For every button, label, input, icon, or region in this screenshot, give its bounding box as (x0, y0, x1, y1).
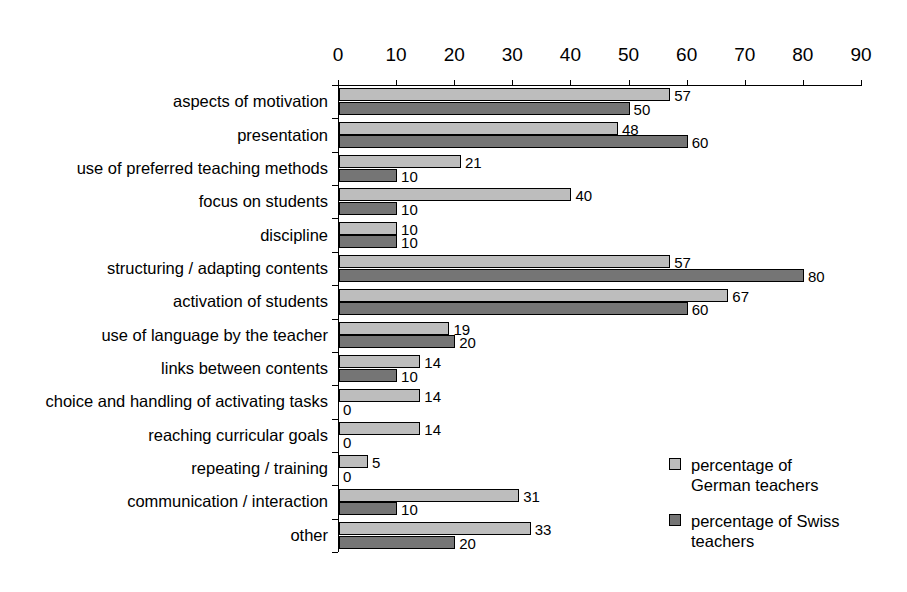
legend-label-line1: percentage of Swiss (691, 511, 894, 531)
x-tick-label: 30 (502, 44, 523, 66)
bar-value-label: 5 (368, 455, 380, 470)
bar-value-label: 60 (688, 302, 709, 317)
bar-value-label: 33 (531, 522, 552, 537)
bar-value-label: 31 (519, 489, 540, 504)
category-label: links between contents (8, 359, 338, 378)
category-label: presentation (8, 126, 338, 145)
bar-value-label: 10 (397, 369, 418, 384)
bar-german (339, 255, 670, 268)
bar-german (339, 88, 670, 101)
bar-value-label: 0 (339, 469, 351, 484)
bar-german (339, 455, 368, 468)
y-tick-mark (332, 452, 338, 453)
category-label: other (8, 526, 338, 545)
bar-value-label: 40 (571, 188, 592, 203)
category-label: aspects of motivation (8, 92, 338, 111)
bar-value-label: 57 (670, 88, 691, 103)
bar-swiss (339, 202, 397, 215)
y-tick-mark (332, 385, 338, 386)
legend-swatch-icon (669, 458, 681, 470)
bar-swiss (339, 302, 688, 315)
x-tick-label: 50 (618, 44, 639, 66)
category-label: focus on students (8, 192, 338, 211)
bar-swiss (339, 235, 397, 248)
x-tick-label: 90 (850, 44, 871, 66)
y-tick-mark (332, 319, 338, 320)
bar-value-label: 20 (455, 335, 476, 350)
y-tick-mark (332, 519, 338, 520)
y-tick-mark (332, 118, 338, 119)
bar-value-label: 14 (420, 389, 441, 404)
bar-row: structuring / adapting contents5780 (338, 252, 861, 285)
bar-row: activation of students6760 (338, 285, 861, 318)
category-label: discipline (8, 226, 338, 245)
y-tick-mark (332, 152, 338, 153)
bar-german (339, 355, 420, 368)
bar-german (339, 155, 461, 168)
bar-row: use of language by the teacher1920 (338, 319, 861, 352)
x-tick-mark (861, 80, 862, 86)
y-tick-mark (332, 352, 338, 353)
bar-row: choice and handling of activating tasks1… (338, 385, 861, 418)
bar-swiss (339, 102, 630, 115)
bar-row: reaching curricular goals140 (338, 419, 861, 452)
bar-row: focus on students4010 (338, 185, 861, 218)
bar-value-label: 10 (397, 202, 418, 217)
bar-swiss (339, 335, 455, 348)
category-label: communication / interaction (8, 492, 338, 511)
bar-value-label: 0 (339, 402, 351, 417)
bar-german (339, 389, 420, 402)
y-tick-mark (332, 485, 338, 486)
category-label: use of language by the teacher (8, 326, 338, 345)
category-label: repeating / training (8, 459, 338, 478)
legend-swatch-icon (669, 514, 681, 526)
y-tick-mark (332, 285, 338, 286)
y-tick-mark (332, 252, 338, 253)
bar-german (339, 322, 449, 335)
legend-item: percentage of Swissteachers (669, 511, 894, 551)
bar-value-label: 10 (397, 502, 418, 517)
category-label: use of preferred teaching methods (8, 159, 338, 178)
bar-value-label: 21 (461, 155, 482, 170)
x-tick-label: 10 (386, 44, 407, 66)
category-label: reaching curricular goals (8, 426, 338, 445)
category-label: choice and handling of activating tasks (8, 392, 338, 411)
bar-swiss (339, 536, 455, 549)
bar-row: use of preferred teaching methods2110 (338, 152, 861, 185)
bar-value-label: 10 (397, 169, 418, 184)
bar-swiss (339, 502, 397, 515)
chart-legend: percentage ofGerman teacherspercentage o… (669, 455, 894, 567)
bar-value-label: 60 (688, 135, 709, 150)
legend-label-line2: German teachers (691, 475, 894, 495)
bar-value-label: 0 (339, 435, 351, 450)
bar-swiss (339, 169, 397, 182)
bar-swiss (339, 135, 688, 148)
bar-row: presentation4860 (338, 118, 861, 151)
bar-value-label: 67 (728, 289, 749, 304)
bar-swiss (339, 369, 397, 382)
x-tick-label: 70 (734, 44, 755, 66)
y-tick-mark (332, 85, 338, 86)
x-tick-label: 80 (792, 44, 813, 66)
bar-german (339, 289, 728, 302)
bar-german (339, 522, 531, 535)
bar-german (339, 422, 420, 435)
x-tick-label: 60 (676, 44, 697, 66)
bar-german (339, 489, 519, 502)
legend-label-line2: teachers (691, 531, 894, 551)
bar-row: links between contents1410 (338, 352, 861, 385)
x-tick-label: 40 (560, 44, 581, 66)
y-tick-mark (332, 419, 338, 420)
bar-german (339, 188, 571, 201)
category-label: structuring / adapting contents (8, 259, 338, 278)
bar-swiss (339, 269, 804, 282)
horizontal-bar-chart: 0102030405060708090 aspects of motivatio… (0, 0, 907, 592)
legend-label-line1: percentage of (691, 455, 894, 475)
y-tick-mark (332, 552, 338, 553)
bar-value-label: 50 (630, 102, 651, 117)
bar-german (339, 222, 397, 235)
y-tick-mark (332, 218, 338, 219)
x-axis-tick-labels: 0102030405060708090 (0, 44, 907, 68)
category-label: activation of students (8, 292, 338, 311)
bar-value-label: 10 (397, 235, 418, 250)
